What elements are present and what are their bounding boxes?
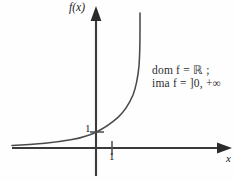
exponential-curve — [12, 13, 140, 145]
exponential-function-figure: f(x) x 1 1 dom f = ℝ ; ima f = ]0, +∞ — [0, 0, 236, 181]
x-axis-tick-label-1: 1 — [109, 150, 115, 162]
x-axis-label: x — [226, 152, 231, 164]
function-properties-annotation: dom f = ℝ ; ima f = ]0, +∞ — [152, 64, 221, 89]
y-axis-arrowhead — [91, 6, 102, 21]
y-axis-label: f(x) — [69, 1, 85, 13]
image-annotation-line: ima f = ]0, +∞ — [152, 77, 221, 90]
y-axis-tick-label-1: 1 — [85, 122, 91, 134]
plot-canvas — [0, 0, 236, 181]
domain-annotation-line: dom f = ℝ ; — [152, 64, 221, 77]
